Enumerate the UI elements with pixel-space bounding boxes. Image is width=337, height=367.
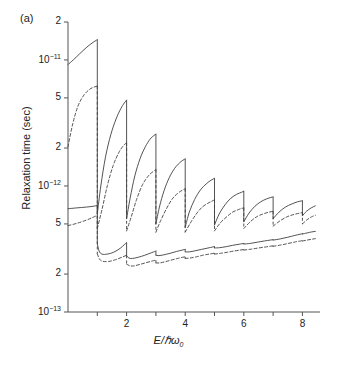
series-segment [68,205,97,208]
x-tick-label: 6 [234,318,254,329]
y-tick-label: 2 [55,141,61,152]
series-segment [97,100,126,214]
series-segment [273,234,302,240]
series-upper-solid [68,40,315,228]
axes [64,22,320,316]
series-segment [215,208,244,231]
y-tick-label: 10−11 [39,53,61,65]
y-tick-label: 2 [55,15,61,26]
series-segment [273,241,302,247]
series-segment [185,200,214,232]
series-segment [215,250,244,255]
series-segment [185,253,214,258]
y-tick-label: 10−13 [38,305,61,317]
series-segment [185,178,214,227]
x-tick-label: 2 [117,318,137,329]
y-tick-label: 2 [55,267,61,278]
series-segment [68,86,97,147]
series-segment [127,170,156,231]
series-segment [156,249,185,255]
series-segment [302,239,315,241]
series-segment [215,191,244,225]
series-segment [156,257,185,263]
y-tick-label: 10−12 [38,179,61,191]
data-curves [68,40,315,266]
series-segment [244,197,273,222]
series-segment [244,246,273,250]
series-lower-dashed [68,215,315,266]
series-segment [127,134,156,219]
series-segment [68,40,97,65]
series-segment [302,231,315,234]
series-segment [97,243,126,255]
series-segment [127,260,156,266]
series-segment [97,254,126,262]
x-tick-label: 4 [175,318,195,329]
series-segment [127,251,156,259]
series-segment [302,206,315,216]
x-tick-label: 8 [292,318,312,329]
series-segment [97,143,126,229]
series-segment [185,247,214,252]
series-segment [68,215,97,225]
series-segment [302,215,315,224]
y-tick-label: 5 [55,91,61,102]
series-segment [244,240,273,244]
series-segment [273,201,302,219]
series-segment [215,243,244,248]
series-segment [156,189,185,232]
y-tick-label: 5 [55,217,61,228]
figure-panel-a: (a) Relaxation time (sec) E/ℏω0 210−1152… [0,0,337,367]
series-segment [273,213,302,227]
